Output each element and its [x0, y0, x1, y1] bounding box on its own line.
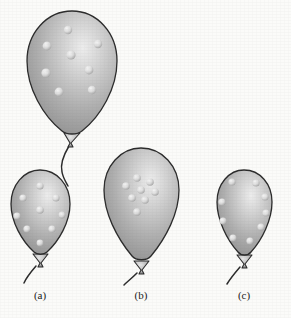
bump [151, 188, 159, 196]
bump [229, 234, 236, 241]
bump [59, 212, 66, 219]
bump [146, 178, 154, 186]
label-a: (a) [34, 289, 47, 302]
bump [55, 88, 64, 97]
label-b: (b) [135, 289, 148, 302]
bump [94, 40, 102, 48]
bump [252, 179, 259, 186]
bump [128, 194, 136, 202]
bump [23, 225, 30, 232]
bump [37, 240, 44, 247]
bump [133, 174, 141, 182]
bump [64, 26, 72, 34]
balloons-figure: (a) (b) (c) [0, 0, 291, 318]
bump [122, 182, 130, 190]
figure-canvas: (a) (b) (c) [0, 0, 291, 318]
bump [262, 209, 269, 216]
bump [19, 194, 26, 201]
bump [48, 225, 55, 232]
bump [41, 68, 50, 77]
bump [85, 66, 94, 75]
bump [246, 237, 253, 244]
bump [137, 186, 145, 194]
bump [218, 198, 225, 205]
bump [133, 208, 141, 216]
bump [88, 86, 96, 94]
bump [13, 212, 20, 219]
bump [52, 194, 59, 201]
bump [43, 42, 52, 51]
bump [36, 206, 44, 214]
bump [219, 217, 226, 224]
bump [261, 193, 268, 200]
bump [141, 196, 149, 204]
bump [66, 50, 75, 59]
bump [228, 178, 235, 185]
label-c: (c) [238, 289, 251, 302]
bump [257, 223, 264, 230]
bump [36, 182, 43, 189]
